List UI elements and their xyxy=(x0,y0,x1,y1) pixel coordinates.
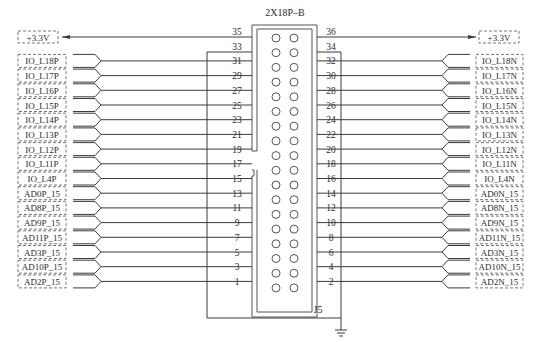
connector-schematic: 2X18P–B 35363334313229302728252623242122… xyxy=(0,0,535,342)
power-label-right: +3.3V xyxy=(488,33,511,43)
pin-hole xyxy=(290,63,298,71)
pin-hole xyxy=(272,122,280,130)
connector-body xyxy=(252,25,317,317)
off-page-connector-icon xyxy=(442,201,470,214)
net-label-right: IO_L18N xyxy=(482,56,517,66)
net-label-right: IO_L14N xyxy=(482,115,517,125)
off-page-connector-icon xyxy=(73,201,101,214)
pin-hole xyxy=(290,93,298,101)
off-page-connector-icon xyxy=(73,275,101,288)
off-page-connector-icon xyxy=(73,187,101,200)
pin-hole xyxy=(290,166,298,174)
net-label-left: AD0P_15 xyxy=(24,189,61,199)
pin-hole xyxy=(290,34,298,42)
left-net-labels: IO_L18PIO_L17PIO_L16PIO_L15PIO_L14PIO_L1… xyxy=(18,54,252,288)
pin-hole xyxy=(290,49,298,57)
pin-hole xyxy=(290,108,298,116)
off-page-connector-icon xyxy=(442,231,470,244)
pin-number-left: 33 xyxy=(232,42,242,52)
net-label-left: IO_L18P xyxy=(25,56,59,66)
net-label-right: IO_L13N xyxy=(482,130,517,140)
off-page-connector-icon xyxy=(442,275,470,288)
pin-hole xyxy=(290,210,298,218)
pin-hole xyxy=(272,255,280,263)
net-label-right: IO_L15N xyxy=(482,101,517,111)
net-label-right: AD8N_15 xyxy=(481,203,519,213)
pin-hole xyxy=(272,210,280,218)
pin-hole xyxy=(272,34,280,42)
pin-hole xyxy=(272,63,280,71)
pin-number-left: 35 xyxy=(232,27,242,37)
off-page-connector-icon xyxy=(73,113,101,126)
off-page-connector-icon xyxy=(442,84,470,97)
pin-hole xyxy=(272,49,280,57)
net-label-left: IO_L4P xyxy=(28,174,57,184)
right-net-labels: IO_L18NIO_L17NIO_L16NIO_L15NIO_L14NIO_L1… xyxy=(317,54,523,288)
pin-number-right: 34 xyxy=(326,42,336,52)
pin-hole xyxy=(272,181,280,189)
off-page-connector-icon xyxy=(442,157,470,170)
pin-hole xyxy=(290,284,298,292)
net-label-left: IO_L17P xyxy=(25,71,59,81)
net-label-right: AD0N_15 xyxy=(481,189,519,199)
pin-hole xyxy=(290,269,298,277)
net-label-right: AD10N_15 xyxy=(479,262,521,272)
pin-hole xyxy=(272,137,280,145)
net-label-left: AD11P_15 xyxy=(22,233,63,243)
net-label-right: AD9N_15 xyxy=(481,218,519,228)
net-label-right: IO_L16N xyxy=(482,86,517,96)
pin-number-right: 36 xyxy=(326,27,336,37)
pin-hole xyxy=(290,196,298,204)
net-label-right: IO_L12N xyxy=(482,145,517,155)
pin-hole xyxy=(290,122,298,130)
off-page-connector-icon xyxy=(73,69,101,82)
pin-hole xyxy=(290,78,298,86)
net-label-left: IO_L13P xyxy=(25,130,59,140)
off-page-connector-icon xyxy=(442,69,470,82)
off-page-connector-icon xyxy=(73,143,101,156)
off-page-connector-icon xyxy=(442,216,470,229)
pin-hole xyxy=(290,225,298,233)
pin-hole xyxy=(290,181,298,189)
off-page-connector-icon xyxy=(442,99,470,112)
power-net-right: +3.3V xyxy=(317,31,519,43)
pin-hole xyxy=(272,240,280,248)
pin-hole xyxy=(290,255,298,263)
off-page-connector-icon xyxy=(73,84,101,97)
off-page-connector-icon xyxy=(73,246,101,259)
pin-hole xyxy=(272,269,280,277)
off-page-connector-icon xyxy=(442,128,470,141)
net-label-right: AD11N_15 xyxy=(479,233,521,243)
net-label-right: IO_L4N xyxy=(484,174,515,184)
net-label-left: IO_L11P xyxy=(25,159,58,169)
net-label-left: IO_L16P xyxy=(25,86,59,96)
off-page-connector-icon xyxy=(442,172,470,185)
pin-hole xyxy=(272,108,280,116)
net-label-left: AD8P_15 xyxy=(24,203,61,213)
off-page-connector-icon xyxy=(442,143,470,156)
net-label-left: AD3P_15 xyxy=(24,248,61,258)
off-page-connector-icon xyxy=(442,246,470,259)
net-label-left: IO_L15P xyxy=(25,101,59,111)
net-label-left: AD10P_15 xyxy=(22,262,63,272)
connector-part-name: 2X18P–B xyxy=(265,7,305,18)
connector-ref-designator: J5 xyxy=(314,304,323,315)
pin-hole xyxy=(272,284,280,292)
pin-hole xyxy=(272,93,280,101)
pin-hole xyxy=(290,152,298,160)
net-label-right: IO_L17N xyxy=(482,71,517,81)
pin-hole xyxy=(272,78,280,86)
pin-hole xyxy=(290,137,298,145)
power-label-left: +3.3V xyxy=(27,33,50,43)
off-page-connector-icon xyxy=(73,260,101,273)
off-page-connector-icon xyxy=(73,157,101,170)
off-page-connector-icon xyxy=(442,260,470,273)
ground-icon xyxy=(335,330,347,336)
net-label-left: AD9P_15 xyxy=(24,218,61,228)
off-page-connector-icon xyxy=(442,113,470,126)
pin-hole xyxy=(272,196,280,204)
pin-hole xyxy=(272,166,280,174)
power-net-left: +3.3V xyxy=(18,31,252,43)
net-label-right: AD3N_15 xyxy=(481,248,519,258)
net-label-left: AD2P_15 xyxy=(24,277,61,287)
